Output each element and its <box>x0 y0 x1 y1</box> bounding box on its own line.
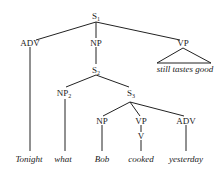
node-vp-3: VP <box>135 116 147 126</box>
node-np2: NP2 <box>57 88 72 99</box>
leaf-cooked: cooked <box>128 154 154 164</box>
node-np-1: NP <box>90 38 102 48</box>
node-adv-1: ADV <box>20 38 40 48</box>
node-v: V <box>138 131 145 141</box>
vp-triangle <box>157 48 211 63</box>
syntax-tree: S1 ADV NP VP S2 NP2 S3 NP VP V ADV still… <box>0 0 224 174</box>
edge-s2-np2 <box>66 75 96 87</box>
edge-s2-s3 <box>96 75 129 87</box>
edge-s1-adv <box>36 22 96 40</box>
leaf-still-tastes-good: still tastes good <box>157 64 214 74</box>
leaf-what: what <box>54 154 72 164</box>
node-np-3: NP <box>96 116 108 126</box>
leaf-tonight: Tonight <box>15 154 43 164</box>
node-s3: S3 <box>127 88 135 99</box>
leaf-bob: Bob <box>95 154 110 164</box>
edge-s3-np <box>103 102 130 116</box>
node-vp-1: VP <box>177 38 189 48</box>
node-adv-3: ADV <box>176 116 196 126</box>
edge-s1-vp <box>96 22 180 40</box>
node-s2: S2 <box>92 65 100 76</box>
leaf-yesterday: yesterday <box>168 154 203 164</box>
node-s1: S1 <box>92 11 100 22</box>
